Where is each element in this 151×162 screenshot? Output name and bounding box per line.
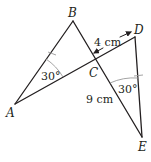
label-point-d: D (133, 23, 144, 37)
label-length-cd: 4 cm (94, 36, 122, 49)
label-angle-e: 30° (118, 83, 138, 96)
label-point-a: A (5, 106, 15, 120)
tick-mark-de (134, 75, 143, 76)
segment-ab (15, 21, 73, 104)
label-angle-a: 30° (41, 70, 61, 83)
label-point-c: C (89, 66, 98, 80)
label-point-e: E (137, 140, 147, 154)
label-length-ce: 9 cm (86, 93, 114, 106)
geometry-diagram: A B C D E 4 cm 9 cm 30° 30° (0, 0, 151, 162)
measure-arrow-d (120, 32, 131, 37)
label-point-b: B (67, 6, 77, 20)
